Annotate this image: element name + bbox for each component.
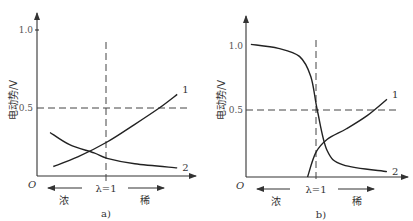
lambda-label: λ=1 bbox=[305, 184, 326, 195]
panel-label: b) bbox=[316, 209, 326, 220]
series-group: 12 bbox=[50, 84, 189, 172]
lean-label: 稀 bbox=[140, 194, 150, 206]
y-axis-label: 电动势/V bbox=[215, 80, 227, 120]
origin-label: O bbox=[236, 180, 244, 191]
y-tick-label-0.5: 0.5 bbox=[19, 103, 34, 113]
lambda-label: λ=1 bbox=[95, 183, 116, 194]
panel-a: 1.0 0.5 O 电动势/V 12 λ=1 浓 稀 a) bbox=[7, 13, 196, 219]
series-label-1: 1 bbox=[182, 84, 188, 95]
series-line-1 bbox=[308, 99, 387, 177]
series-line-1 bbox=[53, 94, 177, 166]
series-label-1: 1 bbox=[392, 89, 398, 100]
origin-label: O bbox=[28, 179, 36, 190]
y-axis-label: 电动势/V bbox=[7, 80, 19, 120]
rich-label: 浓 bbox=[59, 195, 69, 206]
panel-label: a) bbox=[101, 208, 111, 219]
rich-label: 浓 bbox=[271, 196, 281, 207]
panel-b: 1.0 0.5 O 电动势/V 12 λ=1 浓 稀 b) bbox=[215, 16, 408, 220]
lean-label: 稀 bbox=[352, 195, 362, 207]
series-group: 12 bbox=[251, 44, 398, 177]
y-tick-label-1.0: 1.0 bbox=[19, 25, 34, 35]
charts-canvas: 1.0 0.5 O 电动势/V 12 λ=1 浓 稀 a) 1.0 0.5 O … bbox=[0, 0, 413, 221]
y-tick-label-0.5: 0.5 bbox=[229, 105, 244, 115]
series-label-2: 2 bbox=[182, 162, 188, 173]
series-label-2: 2 bbox=[392, 166, 398, 177]
y-tick-label-1.0: 1.0 bbox=[229, 41, 244, 51]
series-line-2 bbox=[251, 44, 387, 171]
